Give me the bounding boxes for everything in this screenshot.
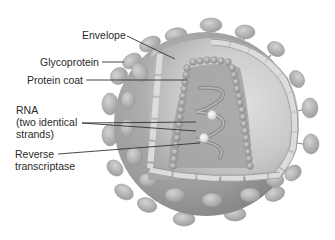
- label-glycoprotein: Glycoprotein: [40, 56, 99, 68]
- label-rna: RNA (two identical strands): [16, 104, 77, 140]
- label-envelope: Envelope: [82, 29, 126, 41]
- hiv-diagram: Envelope Glycoprotein Protein coat RNA (…: [0, 0, 335, 240]
- label-rna-line-1: RNA: [16, 104, 77, 116]
- label-reverse-transcriptase: Reverse transcriptase: [15, 148, 75, 172]
- label-rna-line-2: (two identical: [16, 116, 77, 128]
- reverse-transcriptase-dot: [200, 134, 209, 143]
- label-rt-line-1: Reverse: [15, 148, 75, 160]
- label-rt-line-2: transcriptase: [15, 160, 75, 172]
- reverse-transcriptase-dot: [208, 111, 217, 120]
- label-rna-line-3: strands): [16, 128, 77, 140]
- label-protein-coat: Protein coat: [27, 74, 83, 86]
